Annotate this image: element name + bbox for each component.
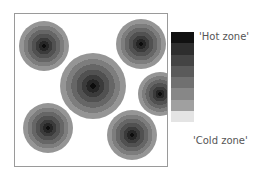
heat-zone: [107, 110, 157, 160]
cold-zone-label: 'Cold zone': [193, 135, 248, 146]
hot-zone-label: 'Hot zone': [199, 31, 249, 42]
legend-step: [171, 55, 194, 66]
legend-step: [171, 66, 194, 77]
heat-zone: [23, 103, 73, 153]
heat-zone: [19, 21, 69, 71]
heat-zone: [138, 72, 168, 116]
legend-step: [171, 111, 194, 122]
heat-legend-bar: [171, 32, 194, 122]
legend-step: [171, 43, 194, 54]
legend-step: [171, 32, 194, 43]
heat-zone: [116, 19, 166, 69]
legend-step: [171, 77, 194, 88]
heat-zone: [60, 53, 126, 119]
legend-step: [171, 88, 194, 99]
heat-map-frame: [14, 13, 168, 167]
legend-step: [171, 100, 194, 111]
